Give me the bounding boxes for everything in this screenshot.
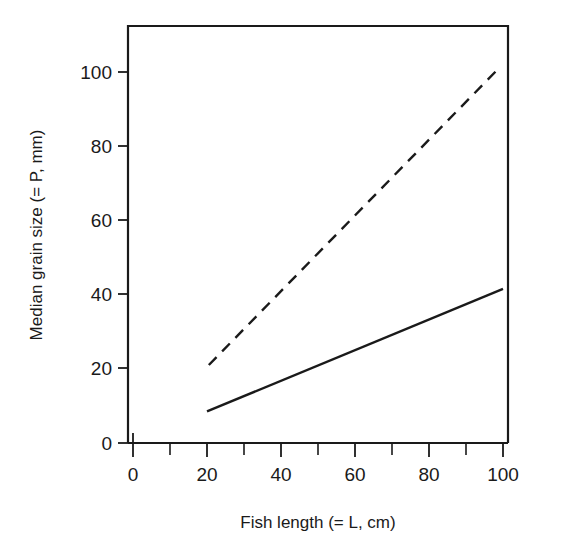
frame-border [128,26,508,443]
y-tick-label-60: 60 [91,210,112,231]
x-tick-label-80: 80 [418,464,439,485]
figure-container: 100 80 60 40 20 0 0 20 40 60 [0,0,565,553]
x-tick-label-100: 100 [487,464,519,485]
plot-frame [128,26,508,443]
x-tick-label-60: 60 [344,464,365,485]
x-axis-title: Fish length (= L, cm) [240,513,395,532]
series-upper-relationship [209,68,499,365]
y-tick-label-0: 0 [101,433,112,454]
line-chart: 100 80 60 40 20 0 0 20 40 60 [0,0,565,553]
y-tick-label-40: 40 [91,284,112,305]
x-tick-label-0: 0 [128,464,139,485]
x-axis-ticks [133,433,503,457]
y-tick-label-80: 80 [91,136,112,157]
y-axis-title: Median grain size (= P, mm) [27,130,46,341]
y-axis-tick-labels: 100 80 60 40 20 0 [80,62,112,454]
x-tick-label-20: 20 [196,464,217,485]
x-axis-tick-labels: 0 20 40 60 80 100 [128,464,519,485]
x-tick-label-40: 40 [270,464,291,485]
series-lower-relationship [207,289,503,412]
y-tick-label-100: 100 [80,62,112,83]
data-series-group [207,68,503,412]
y-tick-label-20: 20 [91,358,112,379]
